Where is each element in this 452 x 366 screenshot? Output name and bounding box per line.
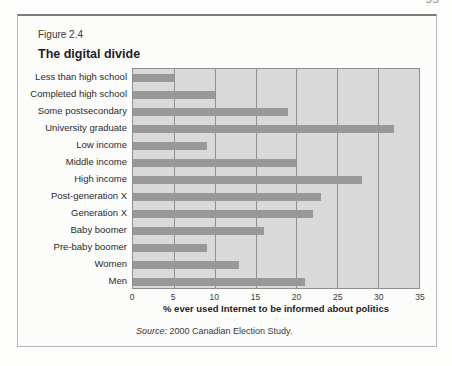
plot-area [132, 68, 420, 289]
category-label: Low income [18, 136, 127, 153]
x-tick-30: 30 [367, 292, 391, 302]
gridline-x-30 [378, 69, 379, 288]
bar-low-income [133, 142, 207, 150]
bar-less-than-high-school [133, 74, 174, 82]
category-label: High income [18, 170, 127, 187]
bar-chart: Less than high schoolCompleted high scho… [18, 68, 438, 318]
x-axis-title: % ever used Internet to be informed abou… [132, 303, 420, 314]
x-tick-5: 5 [161, 292, 185, 302]
source-text: 2000 Canadian Election Study. [167, 326, 292, 336]
category-label: Middle income [18, 153, 127, 170]
category-label: Generation X [18, 204, 127, 221]
category-label: Some postsecondary [18, 102, 127, 119]
bar-high-income [133, 176, 362, 184]
bar-post-generation-x [133, 193, 321, 201]
category-label: Post-generation X [18, 187, 127, 204]
bar-completed-high-school [133, 91, 215, 99]
bar-pre-baby-boomer [133, 244, 207, 252]
category-label: University graduate [18, 119, 127, 136]
bar-university-graduate [133, 125, 394, 133]
bar-men [133, 278, 305, 286]
category-label: Baby boomer [18, 221, 127, 238]
figure-title: The digital divide [38, 47, 140, 61]
bar-some-postsecondary [133, 108, 288, 116]
x-tick-0: 0 [120, 292, 144, 302]
bar-baby-boomer [133, 227, 264, 235]
category-label: Pre-baby boomer [18, 238, 127, 255]
category-label: Completed high school [18, 85, 127, 102]
category-label: Less than high school [18, 68, 127, 85]
source-prefix: Source: [136, 326, 167, 336]
x-tick-35: 35 [408, 292, 432, 302]
source-note: Source: 2000 Canadian Election Study. [136, 326, 292, 336]
figure-box: Figure 2.4 The digital divide Less than … [17, 14, 437, 347]
category-label: Women [18, 255, 127, 272]
figure-label: Figure 2.4 [38, 29, 83, 40]
x-tick-25: 25 [326, 292, 350, 302]
bar-women [133, 261, 239, 269]
x-tick-15: 15 [243, 292, 267, 302]
bar-middle-income [133, 159, 296, 167]
x-tick-20: 20 [285, 292, 309, 302]
bar-generation-x [133, 210, 313, 218]
page-number: 55 [426, 0, 440, 5]
category-label: Men [18, 272, 127, 289]
x-tick-10: 10 [202, 292, 226, 302]
book-page: 55 Figure 2.4 The digital divide Less th… [0, 0, 452, 366]
